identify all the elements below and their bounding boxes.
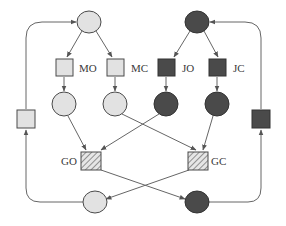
- place-bottom-dark: [185, 191, 209, 213]
- transition-jo: [158, 59, 175, 76]
- transition-go: [81, 152, 101, 170]
- label-go: GO: [61, 155, 77, 167]
- place-mc-out: [103, 92, 127, 116]
- place-bottom-light: [83, 191, 107, 213]
- arc-jc-place-to-gc: [203, 116, 213, 150]
- arc-top-dark-to-jc: [204, 31, 218, 57]
- place-top-light: [77, 11, 101, 33]
- label-jc: JC: [233, 62, 245, 74]
- place-top-dark: [185, 11, 209, 33]
- place-jo-out: [154, 92, 178, 116]
- arc-go-to-bottom-dark: [101, 170, 185, 199]
- arc-top-light-to-mo: [67, 31, 82, 57]
- label-mc: MC: [131, 62, 148, 74]
- transition-mo: [56, 59, 73, 76]
- transition-gc: [188, 152, 208, 170]
- label-gc: GC: [211, 155, 226, 167]
- arc-mo-place-to-go: [68, 116, 86, 150]
- place-jc-out: [205, 92, 229, 116]
- transition-jc: [209, 59, 226, 76]
- arc-gc-to-bottom-light: [106, 170, 189, 199]
- arc-mc-place-to-gc: [122, 114, 196, 150]
- transition-right: [252, 110, 270, 128]
- petri-net-diagram: MO MC JO JC GO GC: [0, 0, 286, 226]
- arc-top-light-to-mc: [96, 31, 112, 57]
- arc-jo-place-to-go: [101, 114, 159, 150]
- label-jo: JO: [182, 62, 194, 74]
- arc-top-dark-to-jo: [174, 31, 190, 57]
- place-mo-out: [52, 92, 76, 116]
- transition-left: [17, 110, 35, 128]
- transition-mc: [107, 59, 124, 76]
- label-mo: MO: [79, 62, 97, 74]
